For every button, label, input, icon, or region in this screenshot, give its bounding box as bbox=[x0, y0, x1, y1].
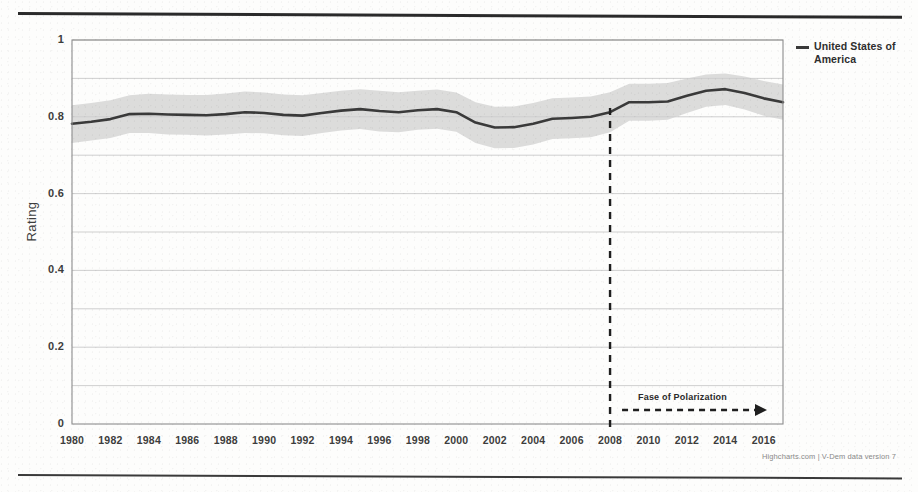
y-tick-label: 1 bbox=[24, 33, 64, 45]
x-tick-label: 1998 bbox=[398, 434, 438, 446]
x-tick-label: 2014 bbox=[705, 434, 745, 446]
x-tick-label: 1988 bbox=[206, 434, 246, 446]
x-tick-label: 1994 bbox=[321, 434, 361, 446]
x-tick-label: 2000 bbox=[436, 434, 476, 446]
x-tick-label: 1986 bbox=[167, 434, 207, 446]
legend-swatch-united-states bbox=[796, 46, 809, 49]
chart-credit: Highcharts.com | V-Dem data version 7 bbox=[762, 452, 896, 461]
y-tick-label: 0.8 bbox=[24, 110, 64, 122]
annotation-phase-of-polarization: Fase of Polarization bbox=[638, 392, 727, 402]
y-tick-label: 0 bbox=[24, 417, 64, 429]
x-tick-label: 2016 bbox=[744, 434, 784, 446]
x-tick-label: 2012 bbox=[667, 434, 707, 446]
x-tick-label: 1990 bbox=[244, 434, 284, 446]
x-tick-label: 1982 bbox=[90, 434, 130, 446]
x-tick-label: 2008 bbox=[590, 434, 630, 446]
x-tick-label: 1980 bbox=[52, 434, 92, 446]
x-tick-label: 1996 bbox=[359, 434, 399, 446]
x-tick-label: 2002 bbox=[475, 434, 515, 446]
chart-page: 00.20.40.60.81 1980198219841986198819901… bbox=[0, 0, 918, 492]
y-tick-label: 0.6 bbox=[24, 187, 64, 199]
y-tick-label: 0.2 bbox=[24, 340, 64, 352]
line-chart-plot bbox=[0, 18, 918, 470]
legend-label-united-states: United States of America bbox=[814, 40, 914, 66]
x-tick-label: 2010 bbox=[628, 434, 668, 446]
y-axis-title: Rating bbox=[24, 202, 39, 242]
x-tick-label: 1984 bbox=[129, 434, 169, 446]
x-tick-label: 2004 bbox=[513, 434, 553, 446]
y-tick-label: 0.4 bbox=[24, 263, 64, 275]
chart-container: 00.20.40.60.81 1980198219841986198819901… bbox=[0, 18, 918, 470]
phase-arrow bbox=[622, 404, 767, 416]
x-tick-label: 1992 bbox=[283, 434, 323, 446]
chart-legend[interactable]: United States of America bbox=[796, 40, 914, 66]
divider-bottom bbox=[18, 474, 902, 479]
x-tick-label: 2006 bbox=[552, 434, 592, 446]
